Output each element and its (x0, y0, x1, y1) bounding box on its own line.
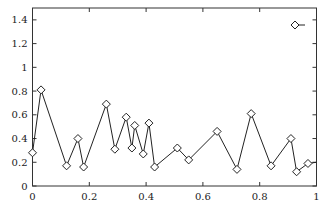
legend-diamond-icon (291, 21, 299, 29)
x-tick-label: 0.6 (195, 191, 211, 202)
x-tick-label: 0.8 (252, 191, 268, 202)
y-tick-label: 1.2 (12, 38, 28, 49)
y-tick-label: 1.4 (12, 14, 28, 25)
plot-border (33, 8, 317, 186)
diamond-marker (304, 159, 312, 167)
diamond-marker (111, 145, 119, 153)
diamond-marker (122, 113, 130, 121)
y-tick-label: 0.8 (12, 86, 28, 97)
diamond-marker (63, 162, 71, 170)
diamond-marker (80, 163, 88, 171)
diamond-marker (287, 135, 295, 143)
y-tick-label: 0.2 (12, 157, 28, 168)
y-tick-label: 1 (21, 62, 27, 73)
line-chart: 00.20.40.60.811.21.4 00.20.40.60.81 (0, 0, 329, 214)
series-line (33, 90, 317, 172)
diamond-marker (29, 149, 37, 157)
diamond-marker (128, 144, 136, 152)
diamond-marker (233, 165, 241, 173)
plot-frame (33, 8, 317, 186)
x-tick-label: 0.4 (138, 191, 154, 202)
x-tick-label: 0.2 (81, 191, 97, 202)
diamond-marker (139, 150, 147, 158)
diamond-marker (131, 121, 139, 129)
y-tick-label: 0.4 (12, 133, 28, 144)
x-tick-label: 0 (29, 191, 35, 202)
diamond-marker (293, 168, 301, 176)
y-tick-label: 0.6 (12, 109, 28, 120)
x-tick-label: 1 (313, 191, 319, 202)
y-tick-label: 0 (21, 181, 27, 192)
diamond-marker (74, 135, 82, 143)
legend (291, 21, 305, 29)
x-axis: 00.20.40.60.81 (29, 8, 319, 202)
diamond-marker (267, 162, 275, 170)
diamond-marker (247, 110, 255, 118)
data-series (29, 86, 317, 176)
diamond-marker (102, 100, 110, 108)
diamond-marker (145, 119, 153, 127)
diamond-marker (37, 86, 45, 94)
